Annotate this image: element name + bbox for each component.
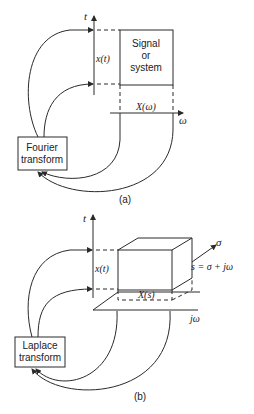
time-axis-label: t bbox=[84, 10, 88, 22]
laplace-label-line2: transform bbox=[19, 352, 61, 363]
laplace-label-line1: Laplace bbox=[22, 340, 57, 351]
box-label-line2: or bbox=[142, 50, 152, 61]
cube-top bbox=[118, 238, 192, 250]
panel-a-fourier: t x(t) Signal or system ω X(ω) Fourier t… bbox=[18, 10, 187, 205]
transform-diagram: t x(t) Signal or system ω X(ω) Fourier t… bbox=[0, 0, 254, 414]
cube-side bbox=[172, 238, 192, 290]
box-label-line3: system bbox=[130, 62, 162, 73]
time-axis-label-b: t bbox=[83, 212, 87, 224]
s-definition: s = σ + jω bbox=[191, 261, 233, 272]
box-label-line1: Signal bbox=[132, 38, 160, 49]
arrow-to-t-bottom bbox=[44, 84, 93, 137]
time-signal-label: x(t) bbox=[95, 53, 111, 65]
fourier-label-line1: Fourier bbox=[26, 142, 58, 153]
caption-a: (a) bbox=[119, 194, 131, 205]
arrow-to-t-top bbox=[28, 30, 93, 137]
time-signal-label-b: x(t) bbox=[94, 263, 110, 275]
s-signal-label: X(s) bbox=[137, 289, 155, 301]
fourier-label-line2: transform bbox=[21, 154, 63, 165]
jw-axis-label: jω bbox=[188, 313, 200, 324]
arrow-to-t-top-b bbox=[28, 250, 92, 337]
sigma-axis bbox=[192, 245, 216, 262]
panel-b-laplace: t x(t) jω X(s) σ s = σ + jω Laplace tran… bbox=[15, 212, 233, 402]
freq-axis-label: ω bbox=[179, 114, 187, 126]
arrow-to-t-bottom-b bbox=[38, 289, 92, 337]
cube-front bbox=[118, 250, 172, 290]
caption-b: (b) bbox=[134, 391, 146, 402]
cube-projection bbox=[118, 278, 192, 300]
sigma-axis-label: σ bbox=[216, 236, 222, 248]
freq-signal-label: X(ω) bbox=[135, 101, 156, 113]
